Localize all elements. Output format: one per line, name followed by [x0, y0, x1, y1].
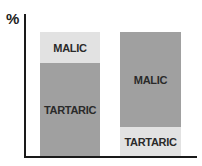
- bar-1-malic-segment: MALIC: [40, 32, 100, 63]
- segment-label: TARTARIC: [44, 104, 96, 116]
- y-axis: [24, 14, 26, 158]
- segment-label: TARTARIC: [124, 136, 176, 148]
- y-axis-label: %: [6, 10, 19, 27]
- bar-1-tartaric-segment: TARTARIC: [40, 63, 100, 156]
- segment-label: MALIC: [134, 74, 167, 86]
- segment-label: MALIC: [53, 42, 86, 54]
- bar-2-malic-segment: MALIC: [120, 32, 181, 127]
- bar-2-tartaric-segment: TARTARIC: [120, 127, 181, 156]
- x-axis: [24, 156, 197, 158]
